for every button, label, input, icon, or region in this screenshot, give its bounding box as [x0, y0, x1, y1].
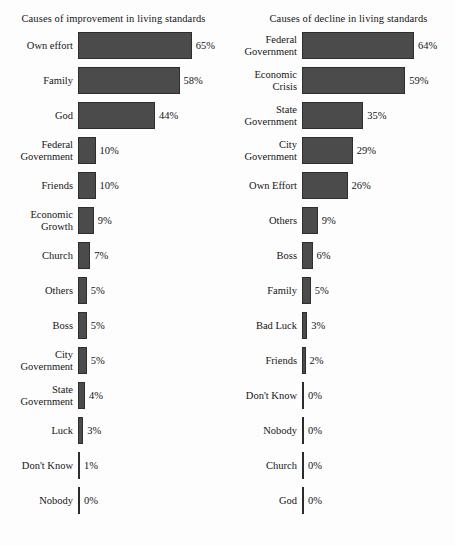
bar-row: Church0% — [228, 448, 455, 483]
bar-value-label: 10% — [96, 168, 119, 203]
bar-value-label: 0% — [304, 378, 322, 413]
bar-category-label-line: State — [52, 384, 73, 396]
bar-category-label-line: Don't Know — [22, 460, 73, 472]
bar — [302, 32, 414, 59]
bar-row: God0% — [228, 483, 455, 518]
bar-row: Boss6% — [228, 238, 455, 273]
bar-category-label-line: Family — [267, 285, 297, 297]
bar-row: CityGovernment29% — [228, 133, 455, 168]
bar-category-label-line: Church — [42, 250, 73, 262]
bar-category-label-line: Federal — [266, 34, 298, 46]
bar-category-label-line: Luck — [51, 425, 73, 437]
bar — [78, 277, 87, 304]
bar-value-label: 4% — [85, 378, 103, 413]
bar-row: Nobody0% — [0, 483, 227, 518]
bar-row: CityGovernment5% — [0, 343, 227, 378]
bar-value-label: 9% — [94, 203, 112, 238]
bar-category-label-line: Government — [245, 116, 298, 128]
bar — [302, 172, 348, 199]
bar-category-label-line: Church — [266, 460, 297, 472]
bar — [78, 137, 96, 164]
bar-row: Don't Know1% — [0, 448, 227, 483]
chart-panel-decline: Causes of decline in living standards Fe… — [228, 0, 455, 545]
bar-value-label: 0% — [304, 483, 322, 518]
bar-value-label: 5% — [311, 273, 329, 308]
bar-value-label: 35% — [363, 98, 386, 133]
bar — [302, 137, 353, 164]
bar-category-label: Don't Know — [228, 378, 300, 413]
bar-category-label-line: Government — [245, 151, 298, 163]
bar-category-label: God — [228, 483, 300, 518]
bar-category-label-line: Boss — [53, 320, 73, 332]
bar-value-label: 0% — [304, 413, 322, 448]
bar-category-label: Church — [228, 448, 300, 483]
bar-category-label: Family — [0, 63, 76, 98]
bar-category-label-line: Others — [269, 215, 297, 227]
bar-value-label: 29% — [353, 133, 376, 168]
bar-row: Friends10% — [0, 168, 227, 203]
bar-row: Luck3% — [0, 413, 227, 448]
bar-category-label-line: Own Effort — [249, 180, 297, 192]
bar-row: Boss5% — [0, 308, 227, 343]
bar-category-label-line: God — [55, 110, 73, 122]
bar-category-label: Luck — [0, 413, 76, 448]
bar-value-label: 64% — [414, 28, 437, 63]
bar-category-label-line: Economic — [254, 69, 297, 81]
bar-category-label-line: Growth — [41, 221, 73, 233]
bar-category-label-line: Government — [21, 361, 74, 373]
bar-category-label: Others — [0, 273, 76, 308]
bar-category-label: Boss — [228, 238, 300, 273]
bar-category-label-line: State — [276, 104, 297, 116]
bar-value-label: 10% — [96, 133, 119, 168]
bar-value-label: 5% — [87, 343, 105, 378]
bar-category-label: Friends — [228, 343, 300, 378]
bar-category-label-line: Don't Know — [246, 390, 297, 402]
bar-category-label: EconomicCrisis — [228, 63, 300, 98]
bar-value-label: 6% — [313, 238, 331, 273]
bar — [302, 207, 318, 234]
bar-value-label: 5% — [87, 308, 105, 343]
bar-row: Others5% — [0, 273, 227, 308]
bar — [78, 347, 87, 374]
bar-category-label-line: Friends — [266, 355, 298, 367]
bar-category-label-line: Economic — [30, 209, 73, 221]
bar-row: Others9% — [228, 203, 455, 238]
bar-value-label: 3% — [83, 413, 101, 448]
bar — [78, 312, 87, 339]
bar-category-label: Nobody — [228, 413, 300, 448]
bar-value-label: 26% — [348, 168, 371, 203]
bar-category-label: Friends — [0, 168, 76, 203]
bar-category-label: God — [0, 98, 76, 133]
bar-row: Own effort65% — [0, 28, 227, 63]
bar — [302, 67, 405, 94]
bar-row: StateGovernment4% — [0, 378, 227, 413]
bar-category-label: CityGovernment — [228, 133, 300, 168]
bar-category-label-line: Family — [43, 75, 73, 87]
bar-value-label: 44% — [155, 98, 178, 133]
bar-category-label: Others — [228, 203, 300, 238]
bar-row: Family5% — [228, 273, 455, 308]
bar-category-label-line: Government — [245, 46, 298, 58]
bar — [78, 207, 94, 234]
bar — [78, 172, 96, 199]
bar-value-label: 0% — [80, 483, 98, 518]
bar-row: Friends2% — [228, 343, 455, 378]
bar-category-label: FederalGovernment — [228, 28, 300, 63]
bar-category-label-line: Others — [45, 285, 73, 297]
bar-category-label: Family — [228, 273, 300, 308]
bar-category-label: CityGovernment — [0, 343, 76, 378]
bar-category-label-line: Boss — [277, 250, 297, 262]
bar-category-label: Church — [0, 238, 76, 273]
bar-category-label: EconomicGrowth — [0, 203, 76, 238]
bar — [78, 382, 85, 409]
bar-value-label: 7% — [90, 238, 108, 273]
bar — [78, 242, 90, 269]
bar-category-label: Nobody — [0, 483, 76, 518]
bar-value-label: 5% — [87, 273, 105, 308]
bar-row: Bad Luck3% — [228, 308, 455, 343]
bar-row: God44% — [0, 98, 227, 133]
bar-category-label: StateGovernment — [0, 378, 76, 413]
bar-category-label: Bad Luck — [228, 308, 300, 343]
chart-panel-improvement: Causes of improvement in living standard… — [0, 0, 227, 545]
bar-category-label-line: City — [55, 349, 73, 361]
